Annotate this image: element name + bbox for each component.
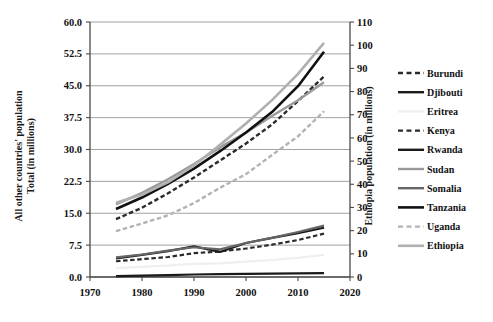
left-tick-label: 22.5: [64, 176, 82, 187]
right-axis-title: Ethiopia population (in millions): [363, 86, 375, 225]
left-tick-label: 60.0: [64, 17, 82, 28]
left-tick-label: 15.0: [64, 208, 82, 219]
legend-label-tanzania: Tanzania: [427, 202, 466, 213]
x-tick-label: 2000: [236, 287, 257, 298]
x-tick-label: 1970: [80, 287, 101, 298]
right-tick-label: 0: [357, 272, 362, 283]
left-axis-title-line2: Total (in millions): [25, 118, 37, 194]
right-tick-label: 20: [357, 225, 368, 236]
right-tick-label: 10: [357, 248, 368, 259]
legend-label-rwanda: Rwanda: [427, 144, 463, 155]
right-tick-label: 100: [357, 40, 373, 51]
legend-label-kenya: Kenya: [427, 125, 455, 136]
legend-label-sudan: Sudan: [427, 164, 455, 175]
legend-label-burundi: Burundi: [427, 68, 463, 79]
x-tick-label: 2020: [340, 287, 361, 298]
legend-label-uganda: Uganda: [427, 221, 460, 232]
population-line-chart: 0.07.515.022.530.037.545.052.560.0 01020…: [0, 0, 493, 322]
x-tick-label: 1990: [184, 287, 205, 298]
x-tick-label: 1980: [132, 287, 153, 298]
left-tick-label: 52.5: [64, 48, 82, 59]
legend-label-djibouti: Djibouti: [427, 87, 463, 98]
left-tick-label: 30.0: [64, 144, 82, 155]
x-tick-label: 2010: [288, 287, 309, 298]
legend-label-somalia: Somalia: [427, 183, 461, 194]
left-tick-label: 45.0: [64, 80, 82, 91]
left-tick-label: 0.0: [69, 272, 82, 283]
left-axis-title-line1: All other countries' population: [13, 90, 24, 222]
legend-label-eritrea: Eritrea: [427, 106, 458, 117]
legend-label-ethiopia: Ethiopia: [427, 240, 464, 251]
right-tick-label: 110: [357, 17, 372, 28]
right-tick-label: 90: [357, 63, 368, 74]
left-tick-label: 7.5: [69, 240, 82, 251]
left-tick-label: 37.5: [64, 112, 82, 123]
